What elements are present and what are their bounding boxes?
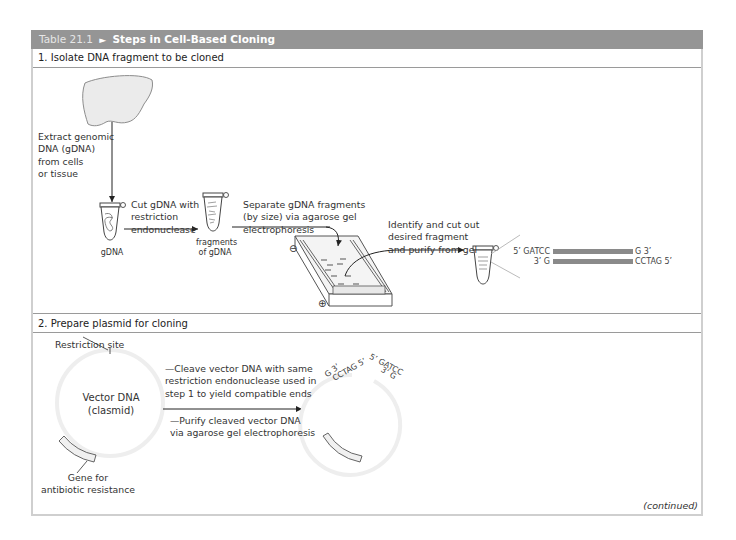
identify-fragment-label: Identify and cut out desired fragment an… (388, 219, 479, 256)
liver-icon (83, 76, 153, 126)
fragment-bottom-strand (553, 259, 633, 264)
purify-vector-label: —Purify cleaved vector DNA via agarose g… (170, 415, 315, 440)
fragment-bottom-left-seq: 3’ G (534, 257, 550, 266)
fragment-top-left-seq: 5’ GATCC (513, 247, 550, 256)
fragment-bottom-right-seq: CCTAG 5’ (635, 257, 672, 266)
cut-gdna-label: Cut gDNA with restriction endonuclease (131, 199, 199, 236)
tube-purified-icon (473, 235, 520, 284)
continued-note: (continued) (643, 500, 698, 511)
tube-fragments-icon (203, 193, 229, 232)
gel-minus-electrode-icon: ⊖ (289, 243, 297, 255)
tube-fragments-label: fragments of gDNA (196, 238, 234, 258)
restriction-site-label: Restriction site (55, 339, 124, 351)
vector-dna-label: Vector DNA (clasmid) (70, 391, 152, 417)
tube-gdna-icon (100, 203, 126, 241)
tube-gdna-label: gDNA (97, 248, 127, 258)
fragment-top-strand (553, 249, 633, 254)
diagram-graphics (0, 0, 736, 540)
fragment-top-right-seq: G 3’ (635, 247, 651, 256)
cleave-vector-label: —Cleave vector DNA with same restriction… (165, 363, 317, 400)
separate-fragments-label: Separate gDNA fragments (by size) via ag… (243, 199, 365, 236)
antibiotic-gene-label: Gene for antibiotic resistance (38, 472, 138, 497)
gel-plus-electrode-icon: ⊕ (318, 298, 326, 310)
extract-gdna-label: Extract genomic DNA (gDNA) from cells or… (38, 131, 114, 181)
